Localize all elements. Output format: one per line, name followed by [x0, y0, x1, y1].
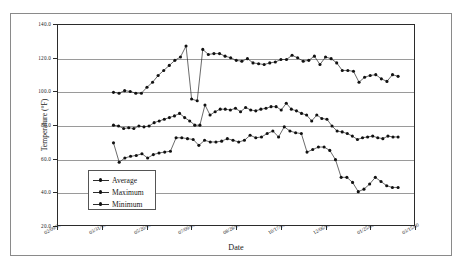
y-tick-label: 120.0 — [38, 55, 51, 61]
data-point — [268, 61, 271, 64]
data-point — [352, 70, 355, 73]
data-point — [146, 156, 149, 159]
legend: Average Maximum Minimum — [88, 170, 156, 210]
data-point — [197, 144, 200, 147]
data-point — [134, 92, 137, 95]
data-point — [374, 73, 377, 76]
data-point — [363, 76, 366, 79]
data-point — [351, 135, 354, 138]
y-tick-label: 140.0 — [38, 21, 51, 27]
data-point — [168, 116, 171, 119]
data-point — [315, 114, 318, 117]
data-point — [269, 105, 272, 108]
data-point — [296, 56, 299, 59]
data-point — [240, 60, 243, 63]
data-point — [300, 112, 303, 115]
data-point — [243, 139, 246, 142]
data-point — [251, 61, 254, 64]
data-point — [291, 54, 294, 57]
data-point — [192, 138, 195, 141]
data-point — [186, 137, 189, 140]
x-axis-title: Date — [57, 243, 415, 252]
data-point — [157, 151, 160, 154]
y-tick-label: 60.0 — [41, 156, 51, 162]
data-point — [122, 127, 125, 130]
data-point — [313, 55, 316, 58]
data-point — [237, 140, 240, 143]
data-point — [391, 186, 394, 189]
legend-item-minimum: Minimum — [89, 198, 155, 210]
y-tick-label: 80.0 — [41, 122, 51, 128]
legend-item-average: Average — [89, 174, 155, 186]
data-point — [324, 55, 327, 58]
data-point — [328, 149, 331, 152]
data-point — [346, 132, 349, 135]
data-point — [283, 125, 286, 128]
data-point — [173, 59, 176, 62]
data-point — [323, 145, 326, 148]
data-point — [226, 137, 229, 140]
data-point — [249, 134, 252, 137]
data-point — [145, 86, 148, 89]
data-point — [305, 114, 308, 117]
data-point — [362, 188, 365, 191]
data-point — [288, 130, 291, 133]
data-point — [271, 130, 274, 133]
data-point — [279, 58, 282, 61]
data-point — [135, 154, 138, 157]
data-point — [246, 57, 249, 60]
legend-item-maximum: Maximum — [89, 186, 155, 198]
data-point — [158, 119, 161, 122]
data-point — [224, 55, 227, 58]
data-point — [112, 124, 115, 127]
data-point — [290, 108, 293, 111]
data-point — [274, 60, 277, 63]
data-point — [369, 74, 372, 77]
data-point — [386, 135, 389, 138]
data-point — [183, 116, 186, 119]
data-point — [300, 132, 303, 135]
legend-marker-icon — [93, 188, 109, 196]
data-point — [340, 176, 343, 179]
data-point — [140, 152, 143, 155]
data-point — [201, 48, 204, 51]
data-point — [214, 110, 217, 113]
data-point — [196, 99, 199, 102]
data-point — [351, 181, 354, 184]
y-tick-label: 40.0 — [41, 189, 51, 195]
data-point — [153, 121, 156, 124]
data-point — [132, 127, 135, 130]
data-point — [285, 58, 288, 61]
data-point — [229, 56, 232, 59]
data-point — [112, 91, 115, 94]
data-point — [361, 136, 364, 139]
data-point — [239, 110, 242, 113]
data-point — [169, 150, 172, 153]
data-point — [207, 53, 210, 56]
data-point — [163, 118, 166, 121]
data-point — [320, 117, 323, 120]
data-point — [209, 140, 212, 143]
data-point — [151, 81, 154, 84]
data-point — [219, 108, 222, 111]
data-point — [330, 57, 333, 60]
data-point — [368, 183, 371, 186]
data-point — [129, 90, 132, 93]
series-line-average — [113, 103, 398, 139]
data-point — [127, 126, 130, 129]
data-point — [391, 73, 394, 76]
data-point — [157, 74, 160, 77]
data-point — [112, 141, 115, 144]
data-point — [341, 130, 344, 133]
data-point — [137, 124, 140, 127]
data-point — [129, 155, 132, 158]
data-point — [231, 139, 234, 142]
data-point — [142, 125, 145, 128]
data-point — [345, 176, 348, 179]
data-point — [330, 124, 333, 127]
data-point — [193, 124, 196, 127]
data-point — [275, 105, 278, 108]
data-point — [214, 140, 217, 143]
data-point — [244, 106, 247, 109]
legend-label: Minimum — [109, 200, 142, 209]
